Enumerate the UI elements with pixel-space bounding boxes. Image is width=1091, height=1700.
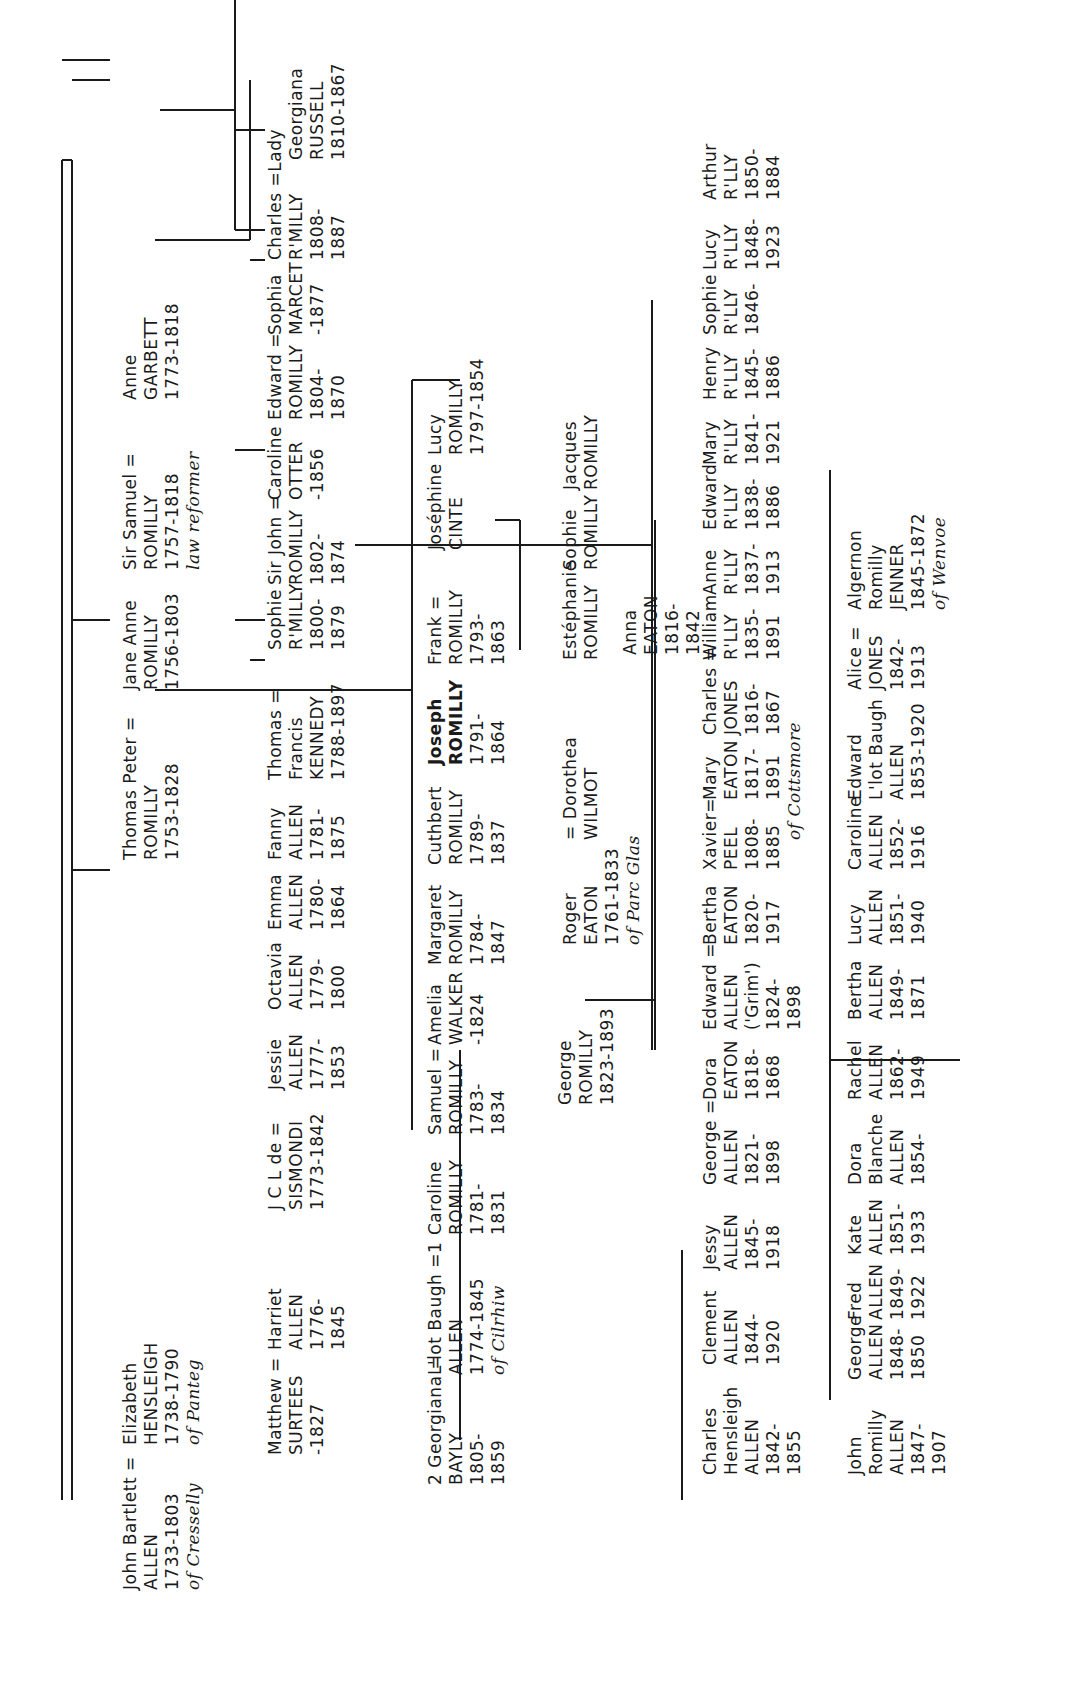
dates-line: 1793- [467, 590, 488, 665]
person-margaret-romilly: Margaret ROMILLY 1784- 1847 [425, 884, 509, 965]
surname-line: GARBETT [141, 303, 162, 400]
person-mary-rlly: Mary R'LLY 1841- 1921 [700, 413, 784, 465]
person-caroline-allen: Caroline ALLEN 1852- 1916 [845, 796, 929, 870]
surname-line: ROMILLY [141, 593, 162, 690]
person-xavier-peel: Xavier= PEEL 1808- 1885 [700, 798, 784, 870]
dates-line: 1820- [742, 885, 763, 945]
person-emma-allen: Emma ALLEN 1780- 1864 [265, 873, 349, 930]
person-amelia-walker: Amelia WALKER -1824 [425, 971, 488, 1045]
person-george-allen: George = ALLEN 1821- 1898 [700, 1099, 784, 1185]
surname-line: ALLEN [866, 1198, 887, 1255]
dates-line: 1940 [908, 888, 929, 945]
person-joseph-romilly: Joseph ROMILLY 1791- 1864 [425, 679, 509, 765]
dates-line: 1913 [908, 626, 929, 690]
dates-line: 1850- [742, 143, 763, 200]
dates-line: 1791- [467, 679, 488, 765]
dates-line: 1853 [328, 1033, 349, 1090]
person-sismondi: J C L de = SISMONDI 1773-1842 [265, 1113, 328, 1210]
name-line: Romilly [866, 513, 887, 610]
name-line: Blanche [866, 1113, 887, 1185]
surname-line: ALLEN [887, 1113, 908, 1185]
person-algernon-romilly-jenner: Algernon Romilly JENNER 1845-1872 of Wen… [845, 513, 950, 610]
name-line: Joseph [425, 679, 446, 765]
surname-line: CINTE [446, 463, 467, 550]
name-line: Algernon [845, 513, 866, 610]
person-elizabeth-hensleigh: Elizabeth HENSLEIGH 1738-1790 of Panteg [120, 1342, 204, 1445]
dates-line: 1733-1803 [162, 1456, 183, 1590]
surname-line: ROMILLY [446, 590, 467, 665]
surname-line: JONES [866, 626, 887, 690]
dates-line: 1837 [488, 786, 509, 865]
surname-line: ALLEN [286, 1033, 307, 1090]
person-jacques-romilly: Jacques ROMILLY [560, 415, 602, 490]
name-line: Edward = [265, 333, 286, 420]
name-line: Estéphanie [560, 560, 581, 660]
name-line: Clement [700, 1290, 721, 1365]
surname-line: ALLEN [286, 1288, 307, 1350]
surname-line: ALLEN [887, 699, 908, 800]
name-line: Anne [120, 303, 141, 400]
dates-line: 1845- [742, 1213, 763, 1270]
surname-line: ROMILLY [446, 358, 467, 455]
surname-line: ROMILLY [446, 1048, 467, 1135]
dates-line: 1756-1803 [162, 593, 183, 690]
person-octavia-allen: Octavia ALLEN 1779- 1800 [265, 941, 349, 1010]
name-line: Mary [700, 413, 721, 465]
person-caroline-romilly: Caroline ROMILLY 1781- 1831 [425, 1160, 509, 1235]
surname-line: ROMILLY [286, 333, 307, 420]
dates-line: -1827 [307, 1357, 328, 1455]
dates-line: 1845-1872 [908, 513, 929, 610]
surname-line: EATON [641, 595, 662, 655]
dates-line: 1783- [467, 1048, 488, 1135]
dates-line: 1916 [908, 796, 929, 870]
dates-line: 1922 [908, 1263, 929, 1320]
dates-line: 1850 [908, 1315, 929, 1380]
dates-line: 1838- [742, 464, 763, 530]
dates-line: 1842 [683, 595, 704, 655]
surname-line: MARCET [286, 262, 307, 335]
surname-line: SISMONDI [286, 1113, 307, 1210]
name-line: John Bartlett = [120, 1456, 141, 1590]
name-line: Emma [265, 873, 286, 930]
surname-line: ALLEN [721, 1099, 742, 1185]
name-line: Bertha [700, 885, 721, 945]
name-line: Kate [845, 1198, 866, 1255]
surname-line: ALLEN [742, 1386, 763, 1475]
surname-line: JONES [721, 647, 742, 735]
dates-line: 1848- [887, 1315, 908, 1380]
person-mary-eaton: Mary EATON 1817- 1891 [700, 740, 784, 800]
dates-line: 1797-1854 [467, 358, 488, 455]
dates-line: 1867 [763, 647, 784, 735]
dates-line: -1856 [307, 426, 328, 500]
dates-line: 1851- [887, 888, 908, 945]
person-george-allen-jr: George ALLEN 1848- 1850 [845, 1315, 929, 1380]
surname-line: ROMILLY [141, 451, 162, 570]
dates-line: 1862- [887, 1040, 908, 1100]
name-line: Bertha [845, 960, 866, 1020]
dates-line: 1800- [307, 583, 328, 650]
person-sir-samuel-romilly: Sir Samuel = ROMILLY 1757-1818 law refor… [120, 451, 204, 570]
surname-line: ALLEN [887, 1409, 908, 1475]
dates-line: 1824- [763, 943, 784, 1030]
dates-line: 1917 [763, 885, 784, 945]
dates-line: 1871 [908, 960, 929, 1020]
dates-line: 1849- [887, 1263, 908, 1320]
surname-line: ALLEN [721, 1213, 742, 1270]
person-jessy-allen: Jessy ALLEN 1845- 1918 [700, 1213, 784, 1270]
person-fanny-allen: Fanny ALLEN 1781- 1875 [265, 803, 349, 860]
name-line: Cuthbert [425, 786, 446, 865]
dates-line: 1913 [763, 543, 784, 595]
person-fred-allen: Fred ALLEN 1849- 1922 [845, 1263, 929, 1320]
name-line: Caroline [845, 796, 866, 870]
name-line: Anna [620, 595, 641, 655]
surname-line: ROMILLY [286, 495, 307, 585]
surname-line: ALLEN [866, 960, 887, 1020]
name-line: Sir Samuel = [120, 451, 141, 570]
dates-line: 1852- [887, 796, 908, 870]
surname-line: PEEL [721, 798, 742, 870]
surname-line: EATON [721, 740, 742, 800]
name-line: Edward [845, 699, 866, 800]
person-jessie-allen: Jessie ALLEN 1777- 1853 [265, 1033, 349, 1090]
dates-line: 1933 [908, 1198, 929, 1255]
dates-line: 1870 [328, 333, 349, 420]
